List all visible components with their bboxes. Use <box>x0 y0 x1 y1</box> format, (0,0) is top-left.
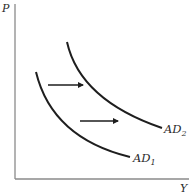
ad2-label: AD2 <box>163 122 187 138</box>
ad1-label: AD1 <box>132 151 156 167</box>
x-axis-label: Y <box>180 182 189 193</box>
y-axis-label: P <box>1 2 10 15</box>
ad-shift-diagram: P Y AD2 AD1 <box>0 0 196 193</box>
